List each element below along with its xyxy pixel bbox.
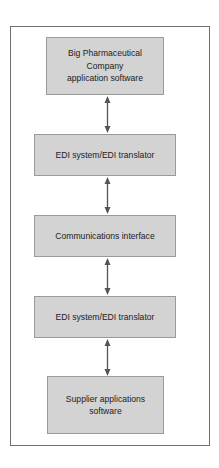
node-label: Communications interface: [55, 230, 154, 243]
bidirectional-arrow-icon: [103, 177, 112, 214]
node-label-line: Company: [67, 60, 143, 73]
node-label: EDI system/EDI translator: [56, 149, 155, 162]
bidirectional-arrow-icon: [103, 96, 112, 133]
node-supplier-app-software: Supplier applications software: [47, 376, 164, 434]
node-big-pharma-app-software: Big Pharmaceutical Company application s…: [46, 37, 164, 95]
bidirectional-arrow-icon: [103, 339, 112, 376]
bidirectional-arrow-icon: [103, 258, 112, 295]
node-label-line: software: [66, 405, 145, 418]
node-edi-translator-1: EDI system/EDI translator: [34, 134, 176, 176]
node-communications-interface: Communications interface: [34, 215, 176, 257]
node-label-line: Big Pharmaceutical: [67, 47, 143, 60]
node-label: EDI system/EDI translator: [56, 311, 155, 324]
node-label-line: Supplier applications: [66, 393, 145, 406]
node-edi-translator-2: EDI system/EDI translator: [34, 296, 176, 338]
node-label-line: application software: [67, 72, 143, 85]
